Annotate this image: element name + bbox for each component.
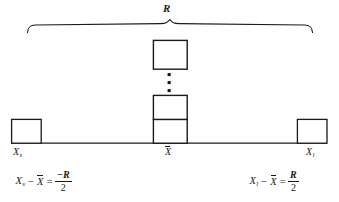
axis-label-largest-subscript: l	[312, 151, 314, 158]
equation-left-denominator: 2	[55, 181, 72, 193]
axis-label-largest: Xl	[306, 147, 314, 159]
figure-root: R Xs X Xl Xs − X = −R 2 Xl − X = R 2	[0, 0, 339, 202]
equation-right-term-subscript: l	[256, 180, 258, 188]
axis-label-mean: X	[165, 147, 171, 157]
range-label: R	[163, 3, 170, 14]
vertical-ellipsis-icon	[168, 73, 171, 92]
equation-right-fraction: R 2	[288, 170, 299, 193]
axis-label-smallest-subscript: s	[19, 151, 22, 158]
equation-right-mean: X	[270, 176, 276, 187]
box-right	[297, 119, 327, 143]
equation-left-term-variable: X	[16, 175, 22, 186]
box-center-top	[153, 40, 187, 69]
range-brace-icon	[28, 20, 313, 33]
equation-smallest-deviation: Xs − X = −R 2	[14, 170, 73, 193]
equation-left-term: Xs	[16, 175, 26, 188]
equation-right-denominator: 2	[288, 181, 299, 193]
equation-right-minus-sign: −	[261, 176, 267, 187]
axis-label-mean-variable: X	[165, 146, 171, 157]
box-left	[12, 119, 42, 143]
axis-label-smallest: Xs	[13, 147, 22, 159]
equation-right-mean-variable: X	[270, 176, 276, 187]
box-center-middle	[153, 95, 187, 119]
equation-right-equals-sign: =	[280, 176, 286, 187]
equation-left-mean-variable: X	[37, 176, 43, 187]
equation-largest-deviation: Xl − X = R 2	[248, 170, 300, 193]
overbar-icon	[271, 175, 276, 176]
equation-left-numerator: −R	[55, 170, 72, 181]
equation-right-numerator: R	[288, 170, 299, 181]
overbar-icon	[165, 146, 170, 147]
equation-left-term-subscript: s	[22, 180, 25, 188]
box-center-bottom	[153, 119, 187, 143]
overbar-icon	[37, 175, 42, 176]
equation-right-term-variable: X	[250, 175, 256, 186]
equation-right-term: Xl	[250, 175, 259, 188]
equation-left-fraction: −R 2	[55, 170, 72, 193]
axis-label-mean-overbar-wrap: X	[165, 147, 171, 157]
equation-left-equals-sign: =	[46, 176, 52, 187]
equation-left-minus-sign: −	[28, 176, 34, 187]
equation-left-mean: X	[37, 176, 43, 187]
